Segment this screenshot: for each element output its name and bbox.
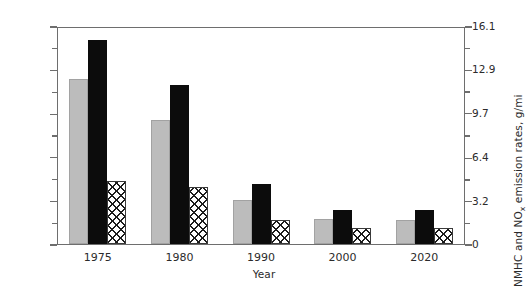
bars-layer (58, 28, 464, 244)
bar-nmhc-2020 (415, 210, 434, 244)
y-axis-left-tick-mark (50, 114, 57, 115)
bar-group (314, 28, 371, 244)
y-axis-right-minor-tick (465, 135, 470, 136)
bar-co-2020 (396, 220, 415, 244)
y-axis-right-minor-tick (465, 179, 470, 180)
y-axis-right-tick-mark (465, 113, 472, 114)
x-axis-tick-label-1975: 1975 (84, 251, 112, 264)
y-axis-right-tick-mark (465, 26, 472, 27)
bar-co-1990 (233, 200, 252, 244)
bar-nox-1990 (271, 220, 290, 244)
y-axis-left-minor-tick (52, 48, 57, 49)
bar-nox-2020 (434, 228, 453, 244)
x-axis-tick-label-2020: 2020 (410, 251, 438, 264)
y-axis-right-tick-label: 12.9 (472, 64, 495, 75)
y-axis-left-tick-mark (50, 201, 57, 202)
y-axis-right-tick-mark (465, 201, 472, 202)
y-axis-left-tick-mark (50, 244, 57, 245)
x-axis-tick-label-1980: 1980 (165, 251, 193, 264)
y-axis-right-tick-label: 6.4 (472, 152, 489, 163)
y-axis-right-tick-label: 0 (472, 239, 479, 250)
y-axis-right-minor-tick (465, 91, 470, 92)
bar-co-2000 (314, 219, 333, 244)
y-axis-right-minor-tick (465, 223, 470, 224)
bar-nox-1980 (189, 187, 208, 244)
bar-group (69, 28, 126, 244)
y-axis-right-tick-label: 9.7 (472, 108, 489, 119)
bar-nox-1975 (107, 181, 126, 244)
bar-nmhc-2000 (333, 210, 352, 244)
y-axis-right-tick-mark (465, 244, 472, 245)
y-axis-right-tick-mark (465, 158, 472, 159)
bar-nmhc-1990 (252, 184, 271, 244)
bar-group (233, 28, 290, 244)
bar-nox-2000 (352, 228, 371, 244)
y-axis-left-minor-tick (52, 179, 57, 180)
emissions-bar-chart: CO emission rate, g/mi NMHC and NOx emis… (0, 0, 528, 293)
x-axis-tick-label-2000: 2000 (329, 251, 357, 264)
y-axis-left-tick-mark (50, 26, 57, 27)
y-axis-left-tick-mark (50, 157, 57, 158)
bar-nmhc-1975 (88, 40, 107, 244)
y-axis-right-title-tail: emission rates, g/mi (512, 94, 524, 206)
x-axis-title-label: Year (253, 268, 276, 280)
y-axis-left-minor-tick (52, 223, 57, 224)
y-axis-right-title: NMHC and NOx emission rates, g/mi (512, 94, 527, 287)
x-axis-title: Year (0, 268, 528, 280)
bar-co-1975 (69, 79, 88, 244)
y-axis-right-tick-label: 3.2 (472, 196, 489, 207)
x-axis-tick-label-1990: 1990 (247, 251, 275, 264)
y-axis-left-minor-tick (52, 135, 57, 136)
bar-group (151, 28, 208, 244)
y-axis-right-tick-label: 16.1 (472, 21, 495, 32)
bar-group (396, 28, 453, 244)
y-axis-left-minor-tick (52, 92, 57, 93)
y-axis-left-tick-mark (50, 70, 57, 71)
bar-nmhc-1980 (170, 85, 189, 244)
bar-co-1980 (151, 120, 170, 244)
y-axis-right-title-subscript: x (518, 207, 527, 212)
y-axis-right-tick-mark (465, 70, 472, 71)
y-axis-right-minor-tick (465, 48, 470, 49)
